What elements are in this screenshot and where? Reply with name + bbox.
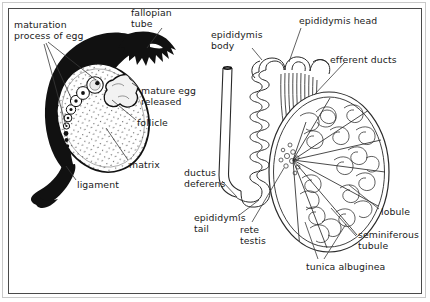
label-follicle: follicle [137,118,168,129]
epididymis-body-shape [250,70,270,192]
label-epididymis-head: epididymis head [299,16,377,27]
label-epididymis-tail: epididymis tail [194,213,246,234]
label-fallopian-tube: fallopian tube [131,8,172,29]
epididymis-head-shape [252,57,330,78]
label-tunica-albuginea: tunica albuginea [306,262,385,273]
label-ductus-deferens: ductus deferens [184,168,226,189]
figure-canvas: maturation process of egg fallopian tube… [0,0,430,302]
label-efferent-ducts: efferent ducts [330,55,397,66]
label-matrix: matrix [129,160,160,171]
label-seminiferous-tubule: seminiferous tubule [358,230,419,251]
released-egg [129,69,141,81]
label-ligament: ligament [77,180,119,191]
label-lobule: lobule [381,207,410,218]
label-mature-egg-released: mature egg released [141,86,196,107]
ligament-shape [31,164,75,208]
label-rete-testis: rete testis [240,225,266,246]
label-maturation-process-of-egg: maturation process of egg [14,20,84,41]
label-epididymis-body: epididymis body [211,30,263,51]
